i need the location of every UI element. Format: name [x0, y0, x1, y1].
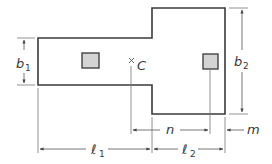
b2-label: b	[234, 54, 242, 69]
left-column	[82, 53, 99, 68]
dimension-b1: b 1	[16, 40, 31, 83]
centroid-label: C	[137, 58, 147, 73]
l2-label: ℓ	[181, 142, 187, 157]
b1-subscript: 1	[25, 63, 31, 73]
footing-diagram: C b 1 b 2 n m ℓ	[0, 0, 272, 164]
centroid-marker	[129, 58, 134, 63]
dimension-m: m	[227, 122, 260, 137]
l1-subscript: 1	[99, 149, 105, 159]
right-column	[203, 54, 218, 69]
b2-subscript: 2	[243, 61, 249, 71]
m-label: m	[247, 122, 260, 137]
b1-label: b	[16, 56, 24, 71]
dimension-b2: b 2	[234, 10, 249, 112]
dimension-l2: ℓ 2	[154, 142, 223, 159]
dimension-l1: ℓ 1	[40, 142, 150, 159]
n-label: n	[166, 122, 174, 137]
extension-lines	[17, 8, 248, 153]
l2-subscript: 2	[190, 149, 196, 159]
dimension-n: n	[133, 122, 208, 137]
l1-label: ℓ	[90, 142, 96, 157]
